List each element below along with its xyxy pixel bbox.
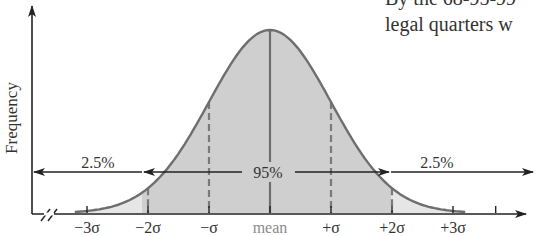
x-tick-label: mean xyxy=(253,219,288,236)
left-tail-percent-label: 2.5% xyxy=(81,154,114,171)
center-percent-label: 95% xyxy=(253,164,282,181)
axis-break-icon xyxy=(41,209,57,221)
x-tick-label: +σ xyxy=(322,219,340,236)
y-axis-label: Frequency xyxy=(2,82,21,154)
x-tick-label: −3σ xyxy=(74,219,100,236)
x-tick-label: −2σ xyxy=(135,219,161,236)
x-axis-tick-labels: −3σ−2σ−σmean+σ+2σ+3σ xyxy=(74,219,466,236)
x-tick-label: +2σ xyxy=(379,219,405,236)
x-tick-label: +3σ xyxy=(440,219,466,236)
right-tail-percent-label: 2.5% xyxy=(420,154,453,171)
normal-distribution-chart: 95% 2.5% 2.5% Frequency −3σ−2σ−σmean+σ+2… xyxy=(0,0,549,236)
x-tick-label: −σ xyxy=(200,219,218,236)
